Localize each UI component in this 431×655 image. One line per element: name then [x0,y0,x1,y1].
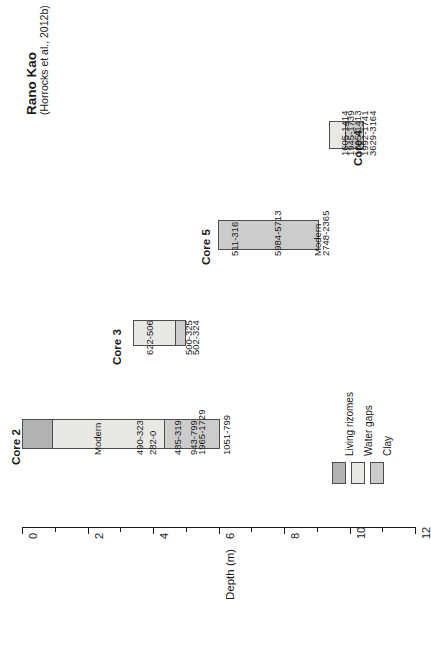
core-date-label: Modern [92,423,103,455]
axis-tick [251,527,252,532]
axis-tick-label: 8 [289,533,301,539]
core-date-label: 3629-3164 [367,111,378,156]
core-date-label: 502-324 [190,320,201,355]
chart-legend: Living rizomesWater gapsClay [330,380,425,495]
legend-swatch-water-gaps [351,462,365,484]
core-date-label: 1965-1729 [196,410,207,455]
axis-tick [22,527,23,534]
core-date-label: 485-319 [172,420,183,455]
core-date-label: 2748-2365 [320,211,331,256]
legend-label-clay: Clay [382,436,393,456]
axis-tick-label: 2 [93,533,105,539]
axis-title-depth: Depth (m) [224,549,236,600]
axis-tick-label: 4 [158,533,170,539]
depth-axis: 024681012 [0,0,431,655]
legend-swatch-living-rizomes [332,462,346,484]
axis-tick [382,527,383,532]
axis-tick-label: 6 [224,533,236,539]
axis-tick-label: 12 [420,527,431,539]
core-date-label: 282-0 [147,431,158,455]
axis-tick [186,527,187,532]
legend-swatch-clay [370,462,384,484]
axis-tick [350,527,351,534]
axis-tick [153,527,154,534]
chart-figure: Rano Kao (Horrocks et al., 2012b) 024681… [0,0,431,655]
legend-label-living-rizomes: Living rizomes [344,392,355,456]
core-name-label: Core 3 [111,329,123,365]
axis-tick [415,527,416,534]
axis-tick [55,527,56,532]
axis-tick [219,527,220,534]
core-name-label: Core 5 [200,229,212,265]
core-date-label: 5984-5713 [272,211,283,256]
core-name-label: Core 2 [10,429,22,465]
legend-label-water-gaps: Water gaps [363,405,374,456]
page-title: Rano Kao [24,52,39,115]
core-date-label: 490-323 [134,420,145,455]
core-date-label: 1051-799 [221,415,232,455]
core-date-label: 622-506 [144,320,155,355]
axis-line [22,527,415,528]
core-date-label: 511-316 [229,222,240,256]
axis-tick [120,527,121,532]
chart-subtitle: (Horrocks et al., 2012b) [38,5,50,115]
axis-tick-label: 10 [355,527,367,539]
axis-tick [284,527,285,534]
axis-tick [317,527,318,532]
core-segment-living-rizomes [23,420,53,448]
core-bar [133,320,186,346]
axis-tick-label: 0 [27,533,39,539]
axis-tick [88,527,89,534]
